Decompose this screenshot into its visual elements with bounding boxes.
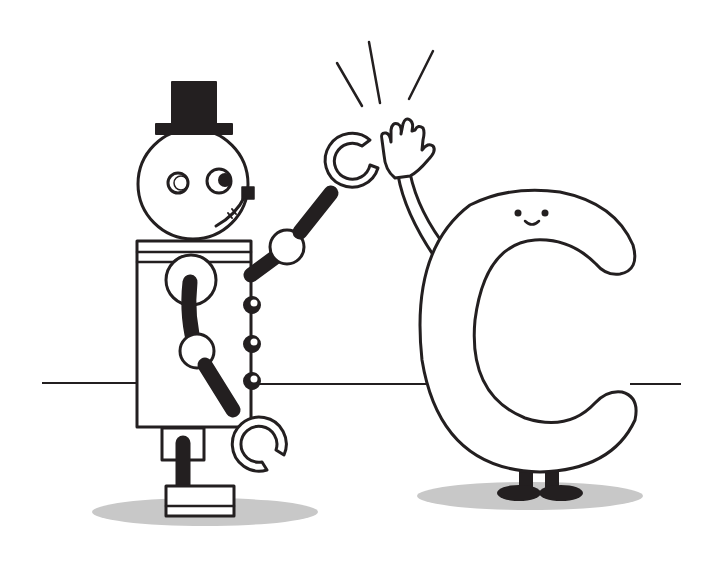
illustration-canvas	[0, 0, 722, 565]
robot-top-hat-brim	[156, 124, 232, 134]
illustration-svg	[0, 0, 722, 565]
robot-upper-gripper	[325, 133, 378, 187]
robot-button-1-highlight	[251, 300, 258, 307]
robot	[137, 82, 378, 516]
robot-button-2-highlight	[251, 339, 258, 346]
motion-line-right	[409, 51, 433, 99]
letter-c-body	[420, 190, 636, 472]
robot-lower-gripper	[232, 417, 286, 471]
robot-right-forearm	[300, 193, 331, 232]
letter-c-eye-left	[515, 210, 522, 217]
robot-pupil-right	[218, 173, 232, 187]
motion-lines	[337, 42, 433, 106]
motion-line-center	[369, 42, 380, 103]
robot-button-3-highlight	[251, 376, 258, 383]
robot-top-hat-crown	[172, 82, 216, 127]
letter-c-character	[382, 119, 637, 501]
motion-line-left	[337, 63, 362, 106]
robot-foot	[166, 486, 234, 516]
letter-c-eye-right	[542, 210, 549, 217]
letter-c-hand	[382, 119, 435, 178]
letter-c-foot-left	[497, 485, 541, 501]
letter-c-foot-right	[539, 485, 583, 501]
